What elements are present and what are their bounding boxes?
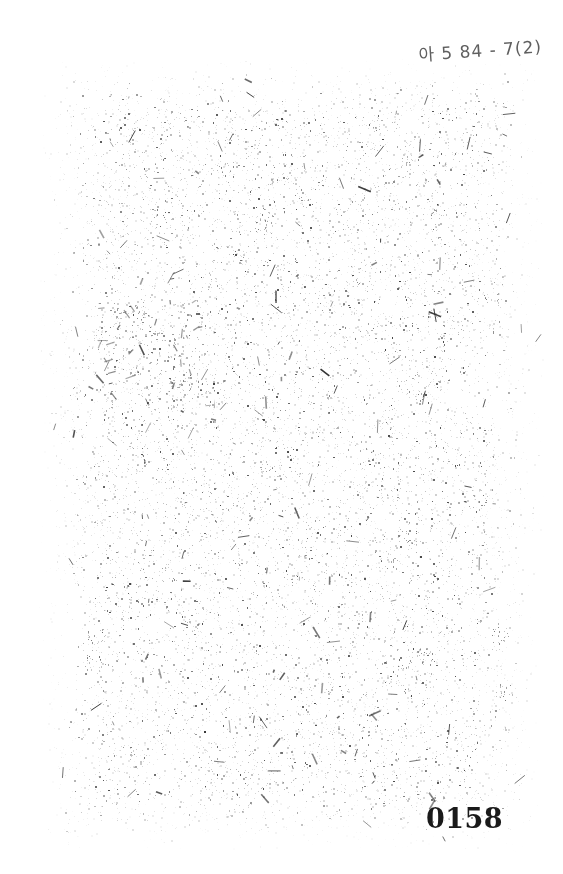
archival-reference-mark: 아 5 84 - 7(2) <box>418 41 538 77</box>
bleed-through-smudge <box>95 300 215 410</box>
page-number: 0158 <box>426 803 503 834</box>
reference-mark-text: 아 5 84 - 7(2) <box>417 32 543 66</box>
scan-speckle-noise <box>0 0 563 874</box>
scanned-document-page: 아 5 84 - 7(2) 0158 <box>0 0 563 874</box>
